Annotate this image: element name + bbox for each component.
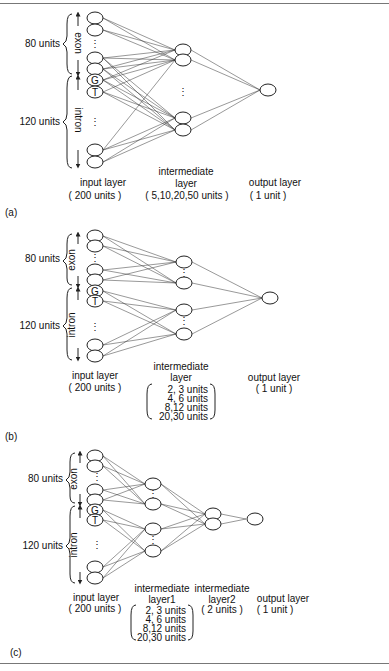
ellipsis-icon: ⋮ [178, 86, 188, 97]
input-layer-nodes: ⋮ G T ⋮ [87, 450, 103, 584]
output-layer-title: output layer [249, 177, 302, 188]
edges-input-hidden [103, 236, 176, 356]
hidden-layer-title-2: layer [170, 372, 192, 383]
marker-t: T [92, 296, 98, 307]
hidden-layer-title: intermediate [153, 361, 208, 372]
hidden-layer1-title-2: layer1 [148, 594, 176, 605]
input-layer-nodes: ⋮ G T ⋮ [87, 12, 103, 168]
output-layer-title: output layer [257, 593, 310, 604]
label-exon: exon [66, 249, 77, 271]
edges-input-hidden [103, 18, 175, 162]
hidden-layer2-nodes [205, 508, 221, 530]
hidden-layer-units: ( 5,10,20,50 units ) [145, 190, 228, 201]
output-layer-units: ( 1 unit ) [256, 383, 293, 394]
network-diagram: 80 units 120 units exon intron ⋮ G T ⋮ ⋮ [0, 0, 389, 671]
edges-hidden-output [191, 50, 260, 130]
input-layer-title: input layer [80, 177, 127, 188]
hidden-layer-nodes: ⋮ ⋮ [176, 256, 192, 340]
ellipsis-icon: ⋮ [179, 267, 189, 278]
input-layer-units: ( 200 units ) [69, 190, 122, 201]
ellipsis-icon: ⋮ [90, 252, 100, 263]
ellipsis-icon: ⋮ [90, 38, 100, 49]
label-intron: intron [66, 312, 77, 337]
input-layer-nodes: ⋮ G T ⋮ [87, 230, 103, 362]
label-120-units: 120 units [22, 540, 63, 551]
label-exon: exon [73, 32, 84, 54]
edges-hidden-output [192, 262, 262, 334]
hidden-layer-title-2: layer [175, 178, 197, 189]
hidden-layer1-units-list: 2, 3 units 4, 6 units 8,12 units 20,30 u… [131, 605, 193, 643]
input-layer-units: ( 200 units ) [69, 382, 122, 393]
label-80-units: 80 units [25, 253, 60, 264]
units-option: 20,30 units [159, 411, 208, 422]
marker-t: T [92, 515, 98, 526]
label-intron: intron [73, 107, 84, 132]
label-exon: exon [68, 468, 79, 490]
hidden-layer2-title: intermediate [194, 583, 249, 594]
edges-input-hidden1 [103, 456, 145, 578]
output-node [247, 513, 263, 525]
panel-a: 80 units 120 units exon intron ⋮ G T ⋮ ⋮ [5, 12, 302, 218]
label-intron: intron [68, 532, 79, 557]
hidden-layer1-title: intermediate [134, 583, 189, 594]
output-layer-units: ( 1 unit ) [257, 604, 294, 615]
ellipsis-icon: ⋮ [92, 539, 102, 550]
input-layer-title: input layer [72, 370, 119, 381]
hidden-layer-units-list: 2, 3 units 4, 6 units 8,12 units 20,30 u… [147, 384, 215, 422]
ellipsis-icon: ⋮ [90, 116, 100, 127]
edges-hidden2-output [221, 514, 246, 524]
ellipsis-icon: ⋮ [92, 471, 102, 482]
output-layer-title: output layer [248, 372, 301, 383]
panel-caption-b: (b) [5, 431, 17, 442]
hidden-layer-title: intermediate [158, 166, 213, 177]
ellipsis-icon: ⋮ [179, 315, 189, 326]
panel-caption-c: (c) [10, 647, 22, 658]
ellipsis-icon: ⋮ [90, 321, 100, 332]
panel-caption-a: (a) [5, 207, 17, 218]
edges-hidden1-hidden2 [161, 484, 205, 551]
hidden-layer-nodes: ⋮ [175, 44, 191, 136]
input-layer-units: ( 200 units ) [69, 603, 122, 614]
hidden-layer2-units: ( 2 units ) [201, 604, 243, 615]
ellipsis-icon: ⋮ [148, 534, 158, 545]
units-option: 20,30 units [137, 632, 186, 643]
ellipsis-icon: ⋮ [148, 488, 158, 499]
marker-g: G [91, 75, 99, 86]
hidden-layer1-nodes: ⋮ ⋮ [145, 478, 161, 557]
panel-c: 80 units 120 units exon intron ⋮ G T ⋮ ⋮… [10, 450, 310, 658]
label-80-units: 80 units [28, 473, 63, 484]
label-120-units: 120 units [19, 116, 60, 127]
output-node [262, 292, 278, 304]
marker-t: T [92, 87, 98, 98]
panel-b: 80 units 120 units exon intron ⋮ G T ⋮ ⋮… [5, 230, 301, 442]
input-layer-title: input layer [73, 592, 120, 603]
label-120-units: 120 units [19, 320, 60, 331]
output-layer-units: ( 1 unit ) [250, 190, 287, 201]
output-node [260, 84, 276, 96]
label-80-units: 80 units [25, 38, 60, 49]
